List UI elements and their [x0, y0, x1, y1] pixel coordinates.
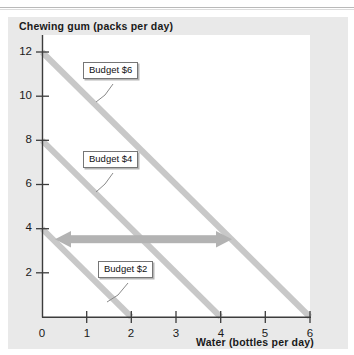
- x-tick-label-2: 2: [121, 327, 141, 339]
- y-tick-label-12: 12: [10, 45, 32, 57]
- x-tick-label-4: 4: [211, 327, 231, 339]
- double-headed-arrow-icon: [55, 231, 232, 247]
- budget-line-6: [42, 52, 310, 317]
- leader-budget4: [96, 173, 113, 192]
- annotation-budget-4: Budget $4: [83, 151, 138, 168]
- y-tick-label-10: 10: [10, 89, 32, 101]
- chart-figure: Chewing gum (packs per day) Water (bottl…: [0, 0, 354, 355]
- y-tick-label-4: 4: [10, 221, 32, 233]
- x-tick-label-0: 0: [32, 327, 52, 339]
- x-tick-label-3: 3: [166, 327, 186, 339]
- y-tick-label-6: 6: [10, 177, 32, 189]
- annotation-budget-6: Budget $6: [83, 62, 138, 79]
- annotation-budget-2: Budget $2: [98, 261, 153, 278]
- chart-vector-layer: [0, 0, 354, 355]
- x-tick-label-5: 5: [255, 327, 275, 339]
- y-tick-label-2: 2: [10, 266, 32, 278]
- budget-lines: [42, 52, 310, 317]
- x-tick-label-1: 1: [77, 327, 97, 339]
- x-tick-label-6: 6: [300, 327, 320, 339]
- y-tick-label-8: 8: [10, 133, 32, 145]
- y-axis-title: Chewing gum (packs per day): [19, 20, 173, 32]
- leader-budget6: [96, 84, 113, 102]
